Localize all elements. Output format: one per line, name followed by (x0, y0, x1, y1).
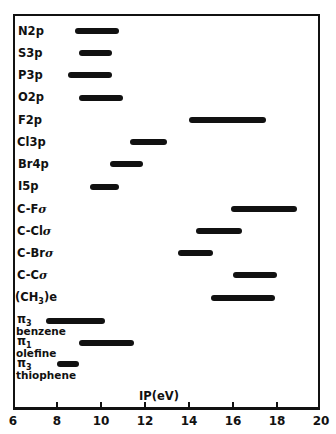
x-tick (188, 402, 190, 409)
x-tick (56, 402, 58, 409)
x-tick-label: 6 (9, 414, 17, 428)
range-bar (189, 117, 266, 123)
range-bar (75, 28, 119, 34)
label-ch3-e: (CH3)e (15, 291, 57, 305)
x-tick-label: 16 (225, 414, 242, 428)
x-tick (276, 402, 278, 409)
subscript: 3 (38, 297, 44, 306)
pi-symbol: π (17, 334, 26, 348)
label-text: C-Cl (17, 224, 43, 238)
range-bar (79, 95, 123, 101)
x-axis-label: IP(eV) (139, 389, 179, 403)
x-tick-label: 14 (181, 414, 198, 428)
sigma-symbol: σ (38, 202, 46, 216)
range-bar (46, 318, 105, 324)
x-tick-label: 18 (269, 414, 286, 428)
x-tick (144, 402, 146, 409)
label-c-cl-sigma: C-Clσ (17, 225, 51, 237)
label-o2p: O2p (18, 91, 44, 103)
range-bar (110, 161, 143, 167)
x-tick-label: 12 (137, 414, 154, 428)
label-s3p: S3p (18, 47, 43, 59)
label-i5p: I5p (18, 180, 39, 192)
label-text: C-C (17, 268, 39, 282)
label-n2p: N2p (18, 25, 44, 37)
x-tick-label: 10 (93, 414, 110, 428)
plot-frame (13, 14, 320, 410)
label-c-c-sigma: C-Cσ (17, 269, 47, 281)
range-bar (178, 250, 213, 256)
label-text: (CH (15, 290, 38, 304)
range-bar (233, 272, 277, 278)
range-bar (196, 228, 242, 234)
range-bar (79, 50, 112, 56)
label-cl3p: Cl3p (17, 136, 46, 148)
range-bar (130, 139, 167, 145)
pi-symbol: π (17, 356, 26, 370)
pi-symbol: π (17, 312, 26, 326)
range-bar (57, 361, 79, 367)
label-br4p: Br4p (18, 158, 49, 170)
sigma-symbol: σ (39, 268, 47, 282)
range-bar (211, 295, 275, 301)
x-tick-label: 20 (313, 414, 330, 428)
label-text: )e (44, 290, 57, 304)
label-p3p: P3p (18, 69, 43, 81)
label-c-f-sigma: C-Fσ (17, 203, 47, 215)
sigma-symbol: σ (45, 246, 53, 260)
label-text: C-Br (17, 246, 45, 260)
x-tick (100, 402, 102, 409)
label-f2p: F2p (18, 114, 42, 126)
sigma-symbol: σ (43, 224, 51, 238)
range-bar (68, 72, 112, 78)
x-tick-label: 8 (53, 414, 61, 428)
label-text: C-F (17, 202, 38, 216)
range-bar (79, 340, 134, 346)
label-c-br-sigma: C-Brσ (17, 247, 53, 259)
range-bar (231, 206, 297, 212)
range-bar (90, 184, 119, 190)
x-tick (232, 402, 234, 409)
label-thiophene: thiophene (16, 369, 76, 381)
